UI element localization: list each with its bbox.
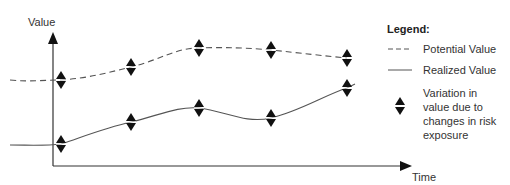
x-axis-arrow-icon (400, 161, 412, 171)
legend-item-variation: Variation in value due to changes in ris… (423, 86, 496, 142)
double-arrow-icon (56, 71, 66, 89)
legend-double-arrow-icon (395, 97, 405, 115)
legend-variation-line: exposure (423, 128, 496, 142)
legend-title: Legend: (387, 23, 430, 35)
double-arrow-icon (342, 49, 352, 67)
legend-variation-line: value due to (423, 100, 496, 114)
realized-value-line (10, 84, 355, 145)
variation-markers-potential (56, 39, 352, 89)
variation-markers-realized (56, 79, 352, 153)
double-arrow-icon (342, 79, 352, 97)
x-axis-label: Time (412, 171, 436, 183)
double-arrow-icon (194, 99, 204, 117)
legend-variation-line: changes in risk (423, 114, 496, 128)
x-axis (53, 161, 412, 171)
y-axis-label: Value (28, 16, 55, 28)
y-axis-arrow-icon (48, 32, 58, 44)
double-arrow-icon (56, 135, 66, 153)
double-arrow-icon (126, 58, 136, 76)
legend-variation-line: Variation in (423, 86, 496, 100)
legend-item-realized: Realized Value (423, 63, 496, 77)
double-arrow-icon (266, 41, 276, 59)
y-axis (48, 32, 58, 166)
double-arrow-icon (194, 39, 204, 57)
legend-item-potential: Potential Value (423, 42, 496, 56)
double-arrow-icon (126, 113, 136, 131)
double-arrow-icon (266, 109, 276, 127)
